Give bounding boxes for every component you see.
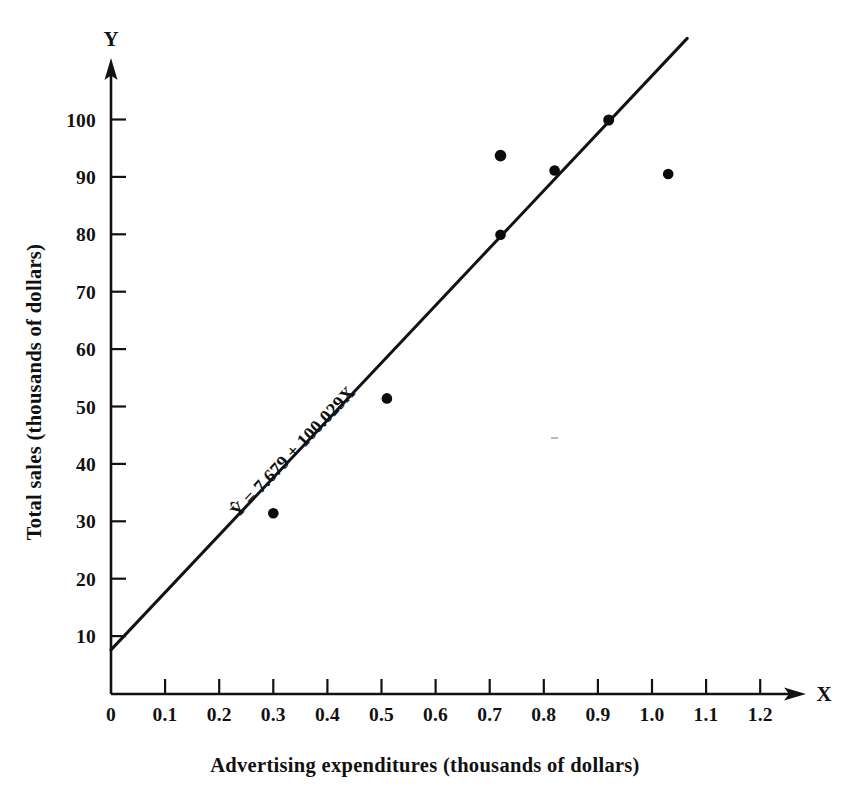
scatter-plot-figure: Y X 0 0.1 0.2 0.3 0.4 0.5 <box>0 0 853 804</box>
x-tick-label: 0.8 <box>531 704 556 725</box>
x-tick-label: 1.2 <box>748 704 773 725</box>
x-tick-label: 0.6 <box>423 704 448 725</box>
y-tick-label: 30 <box>76 511 96 532</box>
data-point <box>268 508 279 519</box>
y-axis: Y <box>103 27 118 694</box>
y-tick-label: 40 <box>76 454 96 475</box>
x-tick-label: 0.4 <box>315 704 340 725</box>
x-tick-label: 0.3 <box>261 704 286 725</box>
data-point <box>382 393 393 404</box>
regression-line <box>111 38 687 650</box>
y-tick-label: 80 <box>76 224 96 245</box>
regression-scatter-chart: Y X 0 0.1 0.2 0.3 0.4 0.5 <box>0 0 853 804</box>
x-axis-ticks: 0 0.1 0.2 0.3 0.4 0.5 0.6 0.7 0.8 0.9 1.… <box>106 679 773 725</box>
regression-equation-annotation: Ŷ = 7.679 + 100.029X <box>226 381 360 521</box>
y-tick-label: 90 <box>76 167 96 188</box>
x-tick-label: 0.9 <box>585 704 610 725</box>
x-tick-label: 0.5 <box>369 704 394 725</box>
data-points <box>268 115 674 519</box>
regression-equation-text: Ŷ = 7.679 + 100.029X <box>226 381 360 521</box>
y-axis-ticks: 10 20 30 40 50 60 70 80 90 100 <box>66 110 126 648</box>
y-tick-label: 60 <box>76 339 96 360</box>
x-tick-label: 0.1 <box>153 704 178 725</box>
x-tick-label: 0 <box>106 704 116 725</box>
data-point <box>495 150 507 162</box>
y-tick-label: 10 <box>76 626 96 647</box>
x-tick-label: 0.2 <box>207 704 232 725</box>
x-axis-title: Advertising expenditures (thousands of d… <box>210 754 639 777</box>
x-tick-label: 1.0 <box>640 704 665 725</box>
x-tick-label: 0.7 <box>477 704 502 725</box>
y-tick-label: 100 <box>66 110 96 131</box>
x-axis-name: X <box>816 682 831 706</box>
data-point <box>495 230 506 241</box>
y-axis-title: Total sales (thousands of dollars) <box>23 244 46 541</box>
data-point <box>549 165 560 176</box>
y-axis-title-group: Total sales (thousands of dollars) <box>23 244 46 541</box>
y-axis-name: Y <box>103 27 118 51</box>
y-tick-label: 20 <box>76 569 96 590</box>
data-point <box>603 115 614 126</box>
y-tick-label: 50 <box>76 397 96 418</box>
data-point <box>663 169 674 180</box>
x-tick-label: 1.1 <box>694 704 719 725</box>
scan-artifact <box>551 437 558 439</box>
y-tick-label: 70 <box>76 282 96 303</box>
